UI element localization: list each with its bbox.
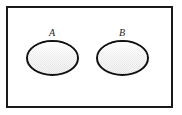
set-b-label: B [119, 27, 125, 38]
set-b-ellipse-highlight [98, 42, 147, 74]
venn-diagram-canvas: A B [0, 0, 182, 115]
venn-diagram-figure: A B [0, 0, 182, 115]
set-a-label: A [48, 27, 56, 38]
set-a-ellipse-highlight [28, 42, 77, 74]
